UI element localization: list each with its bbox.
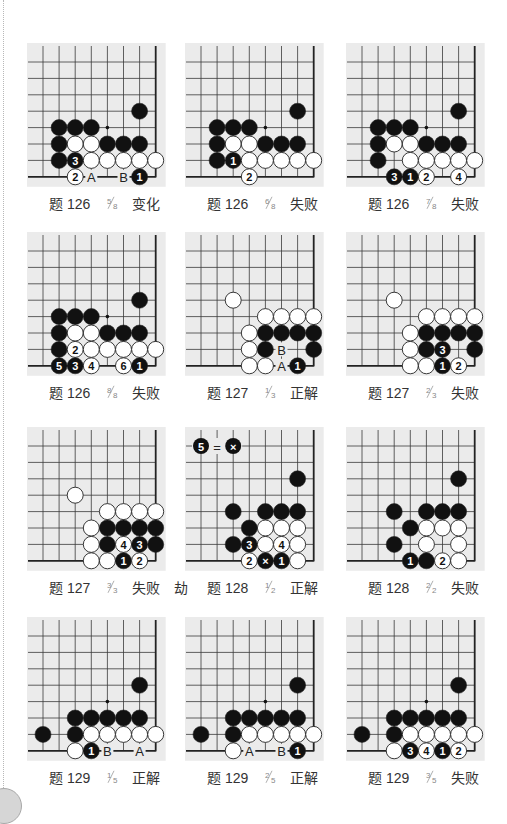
white-stone xyxy=(290,152,306,168)
move-number: 4 xyxy=(456,171,463,183)
black-stone xyxy=(370,152,386,168)
black-stone: 3 xyxy=(67,358,83,374)
move-number: 3 xyxy=(439,344,445,356)
black-stone xyxy=(274,504,290,520)
fraction-denominator: 8 xyxy=(432,202,437,211)
black-stone xyxy=(67,309,83,325)
black-stone: 1 xyxy=(290,358,306,374)
black-stone xyxy=(370,136,386,152)
diagram-caption: 题 12812正解 xyxy=(207,580,318,596)
black-stone xyxy=(99,536,115,552)
white-stone xyxy=(290,520,306,536)
black-stone xyxy=(116,520,132,536)
fraction-denominator: 8 xyxy=(271,202,276,211)
fraction-denominator: 5 xyxy=(271,776,276,785)
black-stone xyxy=(225,726,241,742)
black-stone xyxy=(418,710,434,726)
black-stone xyxy=(290,504,306,520)
result-label: 正解 xyxy=(290,770,318,786)
move-number: 6 xyxy=(120,360,126,372)
white-stone xyxy=(467,726,483,742)
move-number: 3 xyxy=(246,539,252,551)
black-stone xyxy=(306,341,322,357)
white-stone: 4 xyxy=(418,743,434,759)
white-stone xyxy=(241,358,257,374)
problem-number: 题 126 xyxy=(368,196,409,212)
black-stone xyxy=(83,710,99,726)
black-stone xyxy=(209,136,225,152)
result-label: 正解 xyxy=(132,770,160,786)
white-stone xyxy=(467,309,483,325)
hoshi-point xyxy=(264,126,268,130)
move-number: 3 xyxy=(407,745,413,757)
black-stone xyxy=(451,103,467,119)
black-stone xyxy=(435,325,451,341)
move-number: 1 xyxy=(137,171,143,183)
black-stone: 3 xyxy=(402,743,418,759)
black-stone xyxy=(370,120,386,136)
move-number: 5 xyxy=(56,360,62,372)
move-number: 1 xyxy=(137,360,143,372)
white-stone: 4 xyxy=(451,169,467,185)
fraction-numerator: 3 xyxy=(426,771,431,780)
white-stone xyxy=(418,358,434,374)
black-stone: 1 xyxy=(225,152,241,168)
diagram-caption: 题 12713正解 xyxy=(207,385,318,401)
white-stone xyxy=(241,136,257,152)
move-number: 1 xyxy=(295,360,301,372)
fraction-denominator: 2 xyxy=(271,586,276,595)
black-stone: 1 xyxy=(274,553,290,569)
fraction-numerator: 2 xyxy=(426,386,431,395)
white-stone: 4 xyxy=(274,536,290,552)
go-diagram: 3412题 12935失败 xyxy=(346,617,485,786)
problem-number: 题 126 xyxy=(49,385,90,401)
black-stone xyxy=(402,120,418,136)
problem-number: 题 129 xyxy=(207,770,248,786)
go-diagram: AB1题 12925正解 xyxy=(185,617,324,786)
black-stone: 3 xyxy=(67,152,83,168)
move-number: 2 xyxy=(456,360,462,372)
white-stone xyxy=(67,487,83,503)
black-stone: × xyxy=(257,553,273,569)
black-stone xyxy=(51,309,67,325)
black-stone: 5 xyxy=(51,358,67,374)
black-stone xyxy=(116,325,132,341)
move-number: 2 xyxy=(137,555,143,567)
white-stone xyxy=(467,152,483,168)
black-stone xyxy=(386,710,402,726)
white-stone xyxy=(435,309,451,325)
white-stone xyxy=(67,325,83,341)
diagram-caption: 题 12723失败 xyxy=(368,385,479,401)
white-stone xyxy=(274,152,290,168)
problem-number: 题 129 xyxy=(49,770,90,786)
problem-number: 题 129 xyxy=(368,770,409,786)
black-stone xyxy=(257,325,273,341)
black-stone xyxy=(354,726,370,742)
white-stone xyxy=(386,292,402,308)
move-number: 1 xyxy=(407,555,413,567)
white-stone: 2 xyxy=(132,553,148,569)
black-stone xyxy=(451,325,467,341)
white-stone xyxy=(241,325,257,341)
black-stone xyxy=(99,710,115,726)
white-stone xyxy=(225,292,241,308)
white-stone xyxy=(83,325,99,341)
result-label: 失败 xyxy=(290,196,318,212)
black-stone xyxy=(290,677,306,693)
white-stone xyxy=(257,309,273,325)
white-stone xyxy=(148,152,164,168)
move-number: 1 xyxy=(230,155,236,167)
move-number: 1 xyxy=(278,555,284,567)
black-stone xyxy=(209,120,225,136)
move-number: 2 xyxy=(456,745,462,757)
fraction-numerator: 1 xyxy=(107,771,112,780)
hoshi-point xyxy=(106,126,110,130)
position-label: B xyxy=(119,170,128,185)
result-label: 正解 xyxy=(290,580,318,596)
black-stone xyxy=(241,710,257,726)
white-stone: 2 xyxy=(241,553,257,569)
result-label: 失败 xyxy=(451,580,479,596)
black-stone xyxy=(148,520,164,536)
move-number: 2 xyxy=(246,171,252,183)
